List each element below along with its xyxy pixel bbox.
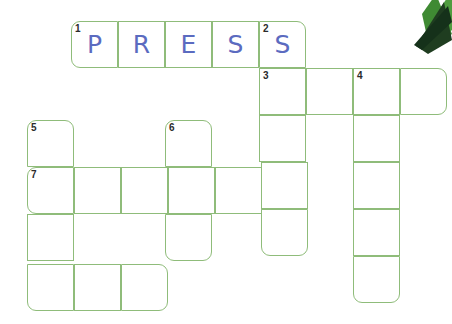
cell-r1c6[interactable]: 4 <box>353 68 400 115</box>
clue-number-7: 7 <box>31 169 37 181</box>
clue-number-5: 5 <box>31 122 37 134</box>
cell-r1c4[interactable]: 3 <box>259 68 306 115</box>
cell-r2c6[interactable] <box>353 115 400 162</box>
cell-r0c0[interactable]: 1P <box>71 21 118 68</box>
cell-r4c6[interactable] <box>353 209 400 256</box>
cell-r3c1[interactable] <box>74 167 121 214</box>
cell-r4c0[interactable] <box>27 214 74 261</box>
cell-letter: R <box>119 22 164 67</box>
cell-r5c2[interactable] <box>121 264 168 311</box>
crossword-puzzle: 1PRES2S34567 <box>0 0 452 324</box>
cell-letter: E <box>166 22 211 67</box>
cell-r4c5[interactable] <box>261 209 308 256</box>
cell-r3c3[interactable] <box>168 167 215 214</box>
cell-r4c2[interactable] <box>165 214 212 261</box>
cell-r3c0[interactable]: 7 <box>27 167 74 214</box>
cell-letter: S <box>213 22 258 67</box>
cell-r5c0[interactable] <box>27 264 74 311</box>
cell-r3c4[interactable] <box>215 167 262 214</box>
clue-number-6: 6 <box>169 122 175 134</box>
cell-r2c0[interactable]: 5 <box>27 120 74 167</box>
cell-r2c4[interactable] <box>259 115 306 162</box>
cell-r0c3[interactable]: S <box>212 21 259 68</box>
cell-r5c6[interactable] <box>353 256 400 303</box>
cell-r5c1[interactable] <box>74 264 121 311</box>
leaf-decoration-icon <box>392 0 452 72</box>
cell-r0c2[interactable]: E <box>165 21 212 68</box>
cell-r3c5[interactable] <box>261 162 308 209</box>
cell-r1c7[interactable] <box>400 68 447 115</box>
cell-r1c5[interactable] <box>306 68 353 115</box>
clue-number-1: 1 <box>75 23 81 35</box>
cell-r3c6[interactable] <box>353 162 400 209</box>
cell-r3c2[interactable] <box>121 167 168 214</box>
cell-r2c2[interactable]: 6 <box>165 120 212 167</box>
clue-number-4: 4 <box>357 70 363 82</box>
clue-number-2: 2 <box>263 23 269 35</box>
clue-number-3: 3 <box>263 70 269 82</box>
cell-r0c4[interactable]: 2S <box>259 21 306 68</box>
cell-r0c1[interactable]: R <box>118 21 165 68</box>
